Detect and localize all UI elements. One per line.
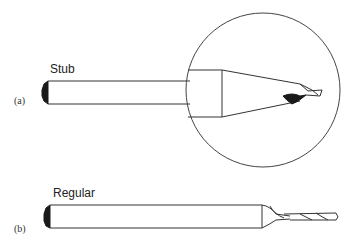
stub-title: Stub	[50, 62, 75, 76]
stub-flute-icon	[283, 94, 306, 104]
stub-tool	[42, 13, 340, 167]
panel-label-b: (b)	[14, 223, 26, 234]
diagram-canvas	[0, 0, 356, 238]
end-mill-diagram: Stub (a) Regular (b)	[0, 0, 356, 238]
regular-tool	[44, 205, 338, 228]
regular-shank-end-icon	[44, 205, 50, 228]
panel-label-a: (a)	[14, 95, 25, 106]
stub-shank-end-icon	[42, 81, 48, 104]
regular-title: Regular	[53, 186, 95, 200]
